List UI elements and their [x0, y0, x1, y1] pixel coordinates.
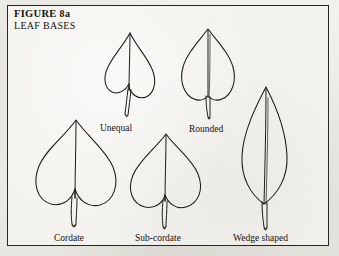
- leaf-drawing-cordate: [32, 116, 120, 230]
- leaf-petiole-edge-unequal: [128, 90, 131, 115]
- leaf-figure-sub-cordate: [126, 131, 206, 231]
- caption-cordate: Cordate: [54, 233, 84, 243]
- caption-sub-cordate: Sub-cordate: [135, 233, 181, 243]
- leaf-petiole-edge-sub-cordate: [166, 201, 167, 226]
- leaf-midrib-unequal: [129, 34, 130, 90]
- leaf-blade-right-unequal: [129, 33, 155, 98]
- leaf-blade-left-unequal: [105, 33, 130, 93]
- leaf-drawing-unequal: [99, 30, 161, 120]
- leaf-petiole-rounded: [206, 96, 208, 117]
- leaf-figure-wedge-shaped: [235, 84, 297, 232]
- leaf-petiole-unequal: [125, 89, 128, 114]
- figure-plate: FIGURE 8a LEAF BASES Unequal: [0, 0, 339, 256]
- figure-title-block: FIGURE 8a LEAF BASES: [14, 8, 76, 32]
- leaf-petiole-sub-cordate: [162, 200, 163, 226]
- leaf-midrib-sub-cordate: [165, 135, 166, 201]
- leaf-petiole-tip-cordate: [72, 224, 76, 227]
- leaf-drawing-wedge-shaped: [235, 84, 297, 232]
- figure-number-word: FIGURE: [14, 8, 57, 19]
- leaf-petiole-edge-cordate: [76, 198, 77, 224]
- leaf-petiole-tip-rounded: [208, 117, 210, 119]
- leaf-petiole-cordate: [71, 197, 72, 224]
- leaf-midrib-shadow-rounded: [209, 34, 210, 97]
- leaf-figure-unequal: [99, 30, 161, 120]
- leaf-petiole-tip-wedge-shaped: [264, 227, 267, 230]
- leaf-drawing-rounded: [176, 26, 240, 122]
- caption-wedge-shaped: Wedge shaped: [233, 233, 288, 243]
- figure-number-line: FIGURE 8a: [14, 8, 76, 20]
- leaf-figure-rounded: [176, 26, 240, 122]
- figure-subject-title: LEAF BASES: [14, 21, 76, 32]
- leaf-figure-cordate: [32, 116, 120, 230]
- leaf-petiole-tip-unequal: [125, 114, 128, 117]
- leaf-petiole-wedge-shaped: [262, 202, 264, 227]
- leaf-drawing-sub-cordate: [126, 131, 206, 231]
- leaf-midrib-wedge-shaped: [264, 88, 266, 204]
- leaf-midrib-cordate: [75, 121, 76, 198]
- figure-number-suffix: 8a: [60, 8, 71, 19]
- leaf-petiole-tip-sub-cordate: [163, 226, 166, 229]
